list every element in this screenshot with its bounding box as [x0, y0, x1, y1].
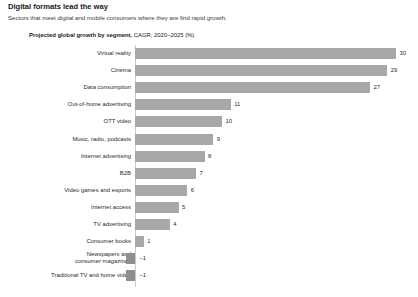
bar-value-label: –1 — [140, 253, 147, 264]
bar — [135, 99, 231, 110]
bar — [135, 185, 187, 196]
bar-row: B2B7 — [0, 167, 418, 184]
bar-row: Internet advertising8 — [0, 150, 418, 167]
bar — [135, 82, 370, 93]
bar-row: Virtual reality30 — [0, 47, 418, 64]
bar — [135, 65, 387, 76]
chart-subtitle-bold: Projected global growth by segment, — [29, 32, 132, 38]
bar-value-label: 27 — [373, 82, 380, 93]
bar-row: OTT video10 — [0, 115, 418, 132]
bar-row: Video games and esports6 — [0, 184, 418, 201]
bar — [135, 168, 196, 179]
bar — [135, 134, 213, 145]
bar-category-label: Music, radio, podcasts — [0, 136, 131, 143]
bar-category-label: Out-of-home advertising — [0, 101, 131, 108]
bar — [135, 48, 396, 59]
bar-category-label: Data consumption — [0, 84, 131, 91]
bar-value-label: –1 — [140, 270, 147, 281]
bar — [126, 270, 135, 281]
bar-category-label: Consumer books — [0, 238, 131, 245]
bar-row: Data consumption27 — [0, 81, 418, 98]
bar — [135, 236, 144, 247]
bar-value-label: 8 — [208, 151, 211, 162]
bar-row: TV advertising4 — [0, 218, 418, 235]
bar-category-label: Video games and esports — [0, 187, 131, 194]
bar-row: Internet access5 — [0, 201, 418, 218]
bar-value-label: 5 — [182, 202, 185, 213]
bar — [126, 253, 135, 264]
bar-category-label: TV advertising — [0, 221, 131, 228]
bar-row: Consumer books1 — [0, 235, 418, 252]
bar-value-label: 29 — [391, 65, 398, 76]
bar-value-label: 11 — [234, 99, 240, 110]
bar — [135, 219, 170, 230]
page-subtitle: Sectors that meet digital and mobile con… — [8, 13, 410, 22]
bar — [135, 202, 179, 213]
bar-value-label: 9 — [217, 134, 220, 145]
bar-row: Cinema29 — [0, 64, 418, 81]
bar-category-label: Cinema — [0, 67, 131, 74]
bar-value-label: 7 — [199, 168, 202, 179]
bar-category-label: Traditional TV and home video — [0, 272, 131, 279]
bar-value-label: 4 — [173, 219, 176, 230]
bar-row: Out-of-home advertising11 — [0, 98, 418, 115]
bar-value-label: 30 — [400, 48, 407, 59]
bar-category-label: Virtual reality — [0, 50, 131, 57]
chart-subtitle-normal: CAGR, 2020–2025 (%) — [132, 32, 194, 38]
bar-row: Newspapers and consumer magazines–1 — [0, 252, 418, 269]
bar-value-label: 10 — [226, 116, 233, 127]
bar-row: Traditional TV and home video–1 — [0, 269, 418, 286]
bar-category-label: Internet advertising — [0, 153, 131, 160]
chart-container: Digital formats lead the way Sectors tha… — [0, 0, 418, 297]
bar-value-label: 1 — [147, 236, 150, 247]
bar-category-label: OTT video — [0, 118, 131, 125]
bar-category-label: Internet access — [0, 204, 131, 211]
plot-area: Virtual reality30Cinema29Data consumptio… — [0, 45, 418, 293]
bar-category-label: B2B — [0, 170, 131, 177]
bar — [135, 151, 205, 162]
chart-subtitle: Projected global growth by segment, CAGR… — [29, 31, 194, 39]
bar-value-label: 6 — [191, 185, 194, 196]
bar-row: Music, radio, podcasts9 — [0, 133, 418, 150]
header: Digital formats lead the way Sectors tha… — [8, 2, 410, 22]
bar — [135, 116, 222, 127]
bar-category-label: Newspapers and consumer magazines — [0, 251, 131, 265]
page-title: Digital formats lead the way — [8, 2, 410, 12]
